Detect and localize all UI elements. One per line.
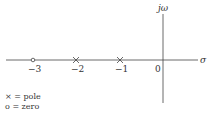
real-axis-label: σ (200, 56, 206, 65)
origin-label: 0 (155, 65, 161, 74)
legend-pole: × = pole (5, 92, 41, 101)
imaginary-axis-label: jω (158, 4, 168, 13)
pole-symbol-icon: × (5, 92, 12, 101)
tick-label: −2 (71, 65, 84, 74)
tick-label: −3 (28, 65, 41, 74)
zero-symbol-icon: o (5, 102, 10, 111)
zero-marker-icon (31, 58, 35, 62)
legend-text: = zero (12, 102, 39, 111)
tick-label: −1 (115, 65, 128, 74)
legend-zero: o = zero (5, 102, 39, 111)
legend-text: = pole (14, 92, 40, 101)
